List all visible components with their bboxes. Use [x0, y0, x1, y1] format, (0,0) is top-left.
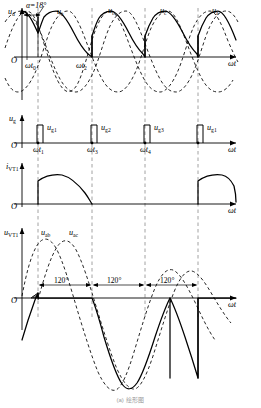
span-label-2: 120° [107, 276, 121, 285]
ivt1-conduction-1 [38, 175, 92, 204]
ud-origin-label: O [11, 56, 17, 65]
phase-label-b: ub [108, 6, 115, 16]
ivt1-y-axis-label: iVT1 [6, 162, 19, 172]
uvt1-x-axis-label: ωt [228, 300, 237, 309]
uac-curve-label: uac [69, 228, 79, 238]
ivt1-conduction-2 [198, 175, 236, 204]
uab-curve-label: uab [41, 228, 51, 238]
gate-marker-dot-1 [37, 142, 40, 145]
gate-pulse-label-4: ug1 [207, 123, 217, 133]
phase-b-dashed [5, 11, 233, 92]
ug-x-axis-label: ωt [228, 145, 237, 154]
gate-pulse-label-1: ug1 [47, 123, 57, 133]
waveform-figure: ud α=18° O ωt ua ub uc ua ωt0 ωt2 ug O ω… [0, 0, 261, 408]
phase-label-a1: ua [57, 7, 64, 17]
ug-time-marker-1: ωt1 [33, 145, 44, 155]
panel-ug: ug O ωt ug1 ug2 ug3 ug1 ωt1 ωt3 ωt4 [9, 114, 237, 155]
uvt1-waveform [22, 293, 236, 389]
panel-uvt1: 120° 120° 120° uVT1 O ωt uab uac [4, 228, 237, 390]
gate-pulse-label-3: ug3 [154, 123, 164, 133]
ug-origin-label: O [11, 141, 17, 150]
gate-marker-dot-3 [144, 142, 147, 145]
ud-output-waveform [22, 11, 236, 57]
panel-ivt1: iVT1 O ωt [6, 162, 237, 215]
ivt1-y-arrowhead [20, 163, 25, 169]
uvt1-origin-label: O [11, 296, 17, 305]
gate-marker-dot-4 [197, 142, 200, 145]
grid-lines [38, 8, 198, 318]
hatched-region [31, 293, 38, 298]
ug-y-axis-label: ug [9, 114, 16, 124]
uab-dashed-curve [22, 239, 215, 390]
alpha-label: α=18° [26, 1, 46, 10]
ug-time-marker-4: ωt4 [140, 145, 151, 155]
ud-x-axis-label: ωt [228, 59, 237, 68]
phase-label-c: uc [160, 6, 167, 16]
ivt1-x-axis-label: ωt [228, 206, 237, 215]
uvt1-y-axis-label: uVT1 [4, 228, 19, 238]
ud-y-axis-label: ud [8, 7, 15, 17]
figure-caption: (a) 绘形图 [117, 396, 144, 404]
ug-y-arrowhead [20, 115, 25, 121]
panel-ud: ud α=18° O ωt ua ub uc ua ωt0 ωt2 [5, 1, 238, 100]
ug-time-marker-3: ωt3 [87, 145, 98, 155]
ivt1-origin-label: O [11, 202, 17, 211]
phase-label-a2: ua [212, 6, 219, 16]
ud-time-marker-2: ωt2 [76, 61, 87, 71]
ud-time-marker-0: ωt0 [25, 61, 36, 71]
gate-marker-dot-2 [91, 142, 94, 145]
span-label-3: 120° [160, 276, 174, 285]
uvt1-y-arrowhead [20, 228, 25, 234]
span-label-1: 120° [54, 276, 68, 285]
uac-dashed-curve [38, 241, 231, 389]
gate-pulse-label-2: ug2 [101, 123, 111, 133]
